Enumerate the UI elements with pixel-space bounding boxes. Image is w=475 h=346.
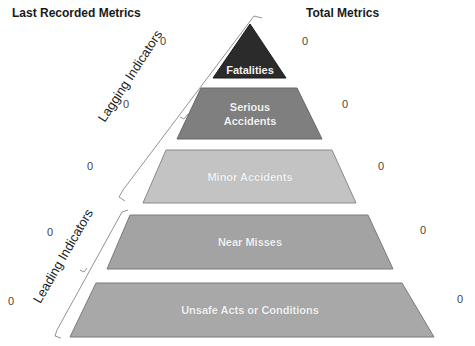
tier-label-serious-accidents: Serious Accidents — [224, 100, 277, 128]
total-minor-accidents: 0 — [378, 160, 384, 172]
tier-label-serious-line2: Accidents — [224, 114, 277, 128]
last-recorded-unsafe-acts: 0 — [8, 295, 14, 307]
last-recorded-near-misses: 0 — [47, 226, 53, 238]
tier-label-minor-accidents: Minor Accidents — [207, 170, 292, 184]
total-fatalities: 0 — [302, 35, 308, 47]
last-recorded-serious-accidents: 0 — [123, 98, 129, 110]
total-serious-accidents: 0 — [342, 98, 348, 110]
total-near-misses: 0 — [420, 224, 426, 236]
leading-bracket-tick — [80, 268, 87, 272]
total-unsafe-acts: 0 — [457, 293, 463, 305]
tier-label-serious-line1: Serious — [224, 100, 277, 114]
last-recorded-fatalities: 0 — [160, 35, 166, 47]
tier-label-unsafe-acts: Unsafe Acts or Conditions — [181, 303, 319, 317]
last-recorded-minor-accidents: 0 — [87, 160, 93, 172]
tier-label-fatalities: Fatalities — [226, 63, 274, 77]
tier-label-near-misses: Near Misses — [218, 235, 282, 249]
